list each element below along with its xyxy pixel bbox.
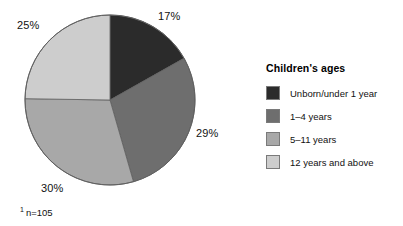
legend: Children's ages Unborn/under 1 year1–4 y… bbox=[266, 62, 400, 178]
footnote-text: n=105 bbox=[26, 207, 53, 218]
pie-chart-figure: 17% 29% 30% 25% 1n=105 Children's ages U… bbox=[0, 0, 403, 226]
pie-chart-area: 17% 29% 30% 25% bbox=[0, 0, 230, 226]
pie-chart-svg bbox=[0, 0, 230, 226]
legend-swatch-icon bbox=[266, 109, 280, 123]
legend-swatch-icon bbox=[266, 86, 280, 100]
legend-item[interactable]: 12 years and above bbox=[266, 155, 400, 169]
legend-item[interactable]: 1–4 years bbox=[266, 109, 400, 123]
legend-item[interactable]: Unborn/under 1 year bbox=[266, 86, 400, 100]
footnote: 1n=105 bbox=[20, 204, 53, 218]
pie-slice-label-1: 17% bbox=[158, 10, 180, 22]
pie-slice-label-2: 29% bbox=[196, 127, 218, 139]
legend-item[interactable]: 5–11 years bbox=[266, 132, 400, 146]
legend-swatch-icon bbox=[266, 132, 280, 146]
legend-item-label: 5–11 years bbox=[290, 134, 336, 145]
legend-item-label: Unborn/under 1 year bbox=[290, 88, 377, 99]
legend-items: Unborn/under 1 year1–4 years5–11 years12… bbox=[266, 86, 400, 169]
footnote-marker: 1 bbox=[20, 206, 24, 213]
legend-item-label: 12 years and above bbox=[290, 157, 373, 168]
pie-slice-label-4: 25% bbox=[17, 19, 39, 31]
legend-title: Children's ages bbox=[266, 62, 400, 74]
pie-slice-label-3: 30% bbox=[41, 182, 63, 194]
legend-swatch-icon bbox=[266, 155, 280, 169]
legend-item-label: 1–4 years bbox=[290, 111, 332, 122]
